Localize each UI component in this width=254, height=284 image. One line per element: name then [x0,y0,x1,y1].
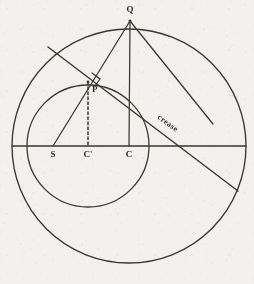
point-q-dot [129,20,132,23]
label-c-prime: C' [84,149,93,159]
label-q: Q [126,4,133,14]
label-c: C [126,149,133,159]
diagram-canvas: Q P S C' C crease [0,0,254,284]
point-p-dot [87,81,90,84]
label-p: P [92,84,98,94]
label-s: S [50,149,55,159]
geometry-figure: Q P S C' C crease [0,0,254,284]
segment-q-c [129,21,130,146]
